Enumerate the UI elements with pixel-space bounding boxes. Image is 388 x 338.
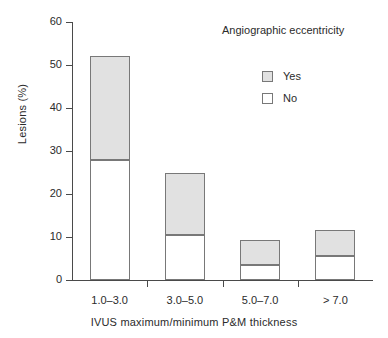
x-tick-mark [147, 281, 148, 287]
y-axis-line [72, 22, 73, 281]
legend-item: Yes [262, 70, 301, 82]
legend-swatch-icon [262, 93, 273, 104]
legend-swatch-icon [262, 71, 273, 82]
legend-item: No [262, 92, 297, 104]
bar-stack [165, 173, 205, 281]
bar-stack [240, 240, 280, 280]
x-axis-label: IVUS maximum/minimum P&M thickness [0, 316, 388, 328]
chart-figure: Lesions (%) 0102030405060 1.0–3.03.0–5.0… [0, 0, 388, 338]
y-tick-mark [66, 108, 72, 109]
bar-stack [90, 56, 130, 280]
legend-title: Angiographic eccentricity [222, 24, 344, 36]
y-tick-mark [66, 22, 72, 23]
bar-segment-no [90, 160, 130, 280]
y-tick-label: 30 [22, 144, 62, 156]
legend-item-label: No [283, 92, 297, 104]
y-tick-label: 50 [22, 58, 62, 70]
bar-segment-no [165, 235, 205, 280]
y-tick-mark [66, 194, 72, 195]
bar-segment-yes [90, 56, 130, 159]
x-tick-label: 3.0–5.0 [145, 294, 225, 306]
y-tick-label: 20 [22, 187, 62, 199]
bar-segment-yes [165, 173, 205, 236]
y-tick-label: 40 [22, 101, 62, 113]
bar-segment-yes [315, 230, 355, 256]
legend-item-label: Yes [283, 70, 301, 82]
y-tick-label: 10 [22, 230, 62, 242]
y-tick-mark [66, 151, 72, 152]
x-tick-label: 5.0–7.0 [220, 294, 300, 306]
x-tick-label: > 7.0 [295, 294, 375, 306]
bar-stack [315, 230, 355, 280]
y-tick-label: 0 [22, 273, 62, 285]
bar-segment-no [240, 265, 280, 280]
y-tick-label: 60 [22, 15, 62, 27]
y-tick-mark [66, 65, 72, 66]
x-tick-mark [223, 281, 224, 287]
x-tick-label: 1.0–3.0 [70, 294, 150, 306]
bar-segment-no [315, 256, 355, 280]
y-tick-mark [66, 280, 72, 281]
x-tick-mark [298, 281, 299, 287]
bar-segment-yes [240, 240, 280, 266]
y-tick-mark [66, 237, 72, 238]
